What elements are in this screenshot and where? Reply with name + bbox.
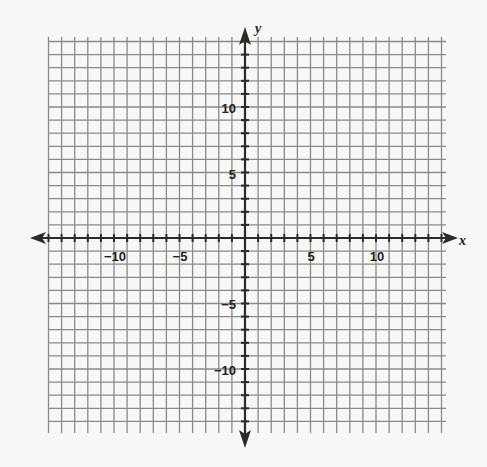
y-axis-label: y (253, 21, 262, 36)
y-tick-label-neg10: −10 (214, 363, 236, 378)
x-tick-label-5: 5 (307, 249, 314, 264)
y-tick-label-5: 5 (229, 167, 236, 182)
x-tick-label-neg5: −5 (173, 249, 188, 264)
grid-lines (49, 37, 447, 433)
x-tick-label-neg10: −10 (104, 249, 126, 264)
y-tick-label-neg5: −5 (221, 297, 236, 312)
y-tick-label-10: 10 (222, 101, 236, 116)
x-axis-label: x (458, 233, 466, 248)
coordinate-plane: x y −10 −5 5 10 10 5 −5 −10 (0, 0, 487, 467)
axes (30, 27, 458, 448)
x-tick-label-10: 10 (370, 249, 384, 264)
